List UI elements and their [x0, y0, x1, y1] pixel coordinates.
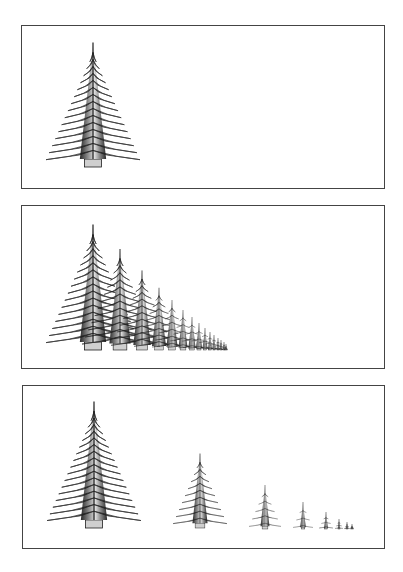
pine-tree-icon — [249, 485, 281, 529]
pine-tree-icon — [46, 43, 140, 167]
tree-group-spaced-row — [47, 402, 354, 529]
tree-group-overlapping-row — [46, 225, 228, 350]
pine-tree-icon — [319, 512, 333, 529]
tree-group-single-tree — [46, 43, 140, 167]
pine-tree-icon — [293, 502, 313, 529]
pine-tree-icon — [173, 454, 227, 528]
tree-illustration — [0, 0, 403, 572]
pine-tree-icon — [350, 524, 354, 529]
pine-tree-icon — [47, 402, 141, 528]
pine-tree-icon — [335, 519, 343, 529]
pine-tree-icon — [344, 522, 350, 529]
